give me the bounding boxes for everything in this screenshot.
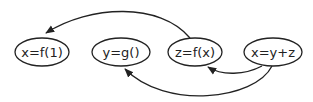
- node-label: x=y+z: [251, 45, 295, 60]
- edge-zfx-to-xf1: [46, 11, 190, 38]
- diagram-svg: x=f(1) y=g() z=f(x) x=y+z: [0, 0, 313, 102]
- node-label: y=g(): [103, 45, 140, 60]
- node-x-f1: x=f(1): [15, 38, 69, 66]
- node-label: z=f(x): [175, 45, 215, 60]
- dependency-diagram: x=f(1) y=g() z=f(x) x=y+z: [0, 0, 313, 102]
- node-y-g: y=g(): [92, 38, 150, 66]
- node-label: x=f(1): [21, 45, 63, 60]
- node-z-fx: z=f(x): [168, 38, 222, 66]
- edge-xyz-to-zfx: [208, 66, 262, 73]
- node-x-yz: x=y+z: [244, 38, 302, 66]
